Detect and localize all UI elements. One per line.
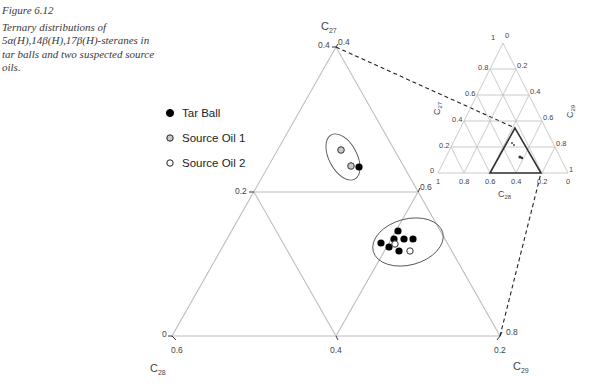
legend-source-oil-2: Source Oil 2 (182, 157, 245, 169)
svg-text:0.8: 0.8 (478, 63, 488, 72)
svg-text:0.2: 0.2 (517, 61, 527, 70)
svg-text:1: 1 (491, 33, 495, 42)
inset-tick-labels: 1 0 0.8 0.2 0.6 0.4 0.4 0.6 0.2 0.8 0 1 … (430, 31, 573, 186)
svg-text:1: 1 (569, 165, 573, 174)
tick-bottom-mid: 0.4 (330, 345, 342, 355)
inset-zoom-region (490, 128, 541, 173)
main-tick-labels: 0.4 0.4 0.2 0.6 0 0.6 0.4 0.2 0.8 (162, 37, 518, 355)
cluster-tar-balls (367, 210, 448, 273)
tick-right: 0.8 (506, 327, 518, 337)
axis-c28-label: C28 (150, 362, 166, 376)
main-triangle (172, 47, 500, 336)
svg-text:0.8: 0.8 (459, 177, 469, 186)
svg-text:0.4: 0.4 (511, 177, 521, 186)
svg-text:0.8: 0.8 (556, 139, 566, 148)
inset-data-marks (511, 142, 523, 159)
tick-bottom-left: 0 (162, 329, 167, 339)
tick-apex-left: 0.4 (318, 40, 330, 50)
ternary-chart: Tar Ball Source Oil 1 Source Oil 2 0.4 0… (0, 0, 596, 390)
inset-axis-c28: C28 (498, 189, 512, 200)
tick-apex-right: 0.4 (338, 37, 350, 47)
source-oil-2-marker-icon (167, 160, 173, 166)
svg-text:1: 1 (436, 177, 440, 186)
legend: Tar Ball Source Oil 1 Source Oil 2 (166, 107, 245, 169)
svg-text:0: 0 (430, 166, 434, 175)
tick-mid-left: 0.2 (235, 186, 247, 196)
tick-mid-right: 0.6 (420, 182, 432, 192)
axis-c27-label: C27 (321, 20, 337, 34)
tick-bottom-right: 0.2 (494, 345, 506, 355)
inset-axis-c29: C29 (565, 104, 576, 118)
svg-text:0.2: 0.2 (439, 141, 449, 150)
cluster-source-oil-1 (319, 128, 367, 185)
tar-ball-marker-icon (166, 109, 173, 116)
svg-text:0.6: 0.6 (485, 177, 495, 186)
svg-text:0: 0 (505, 31, 509, 40)
svg-text:0: 0 (566, 177, 570, 186)
svg-text:0.4: 0.4 (452, 115, 462, 124)
inset-axis-c27: C27 (432, 101, 443, 115)
source-oil-1-marker-icon (167, 135, 173, 141)
svg-text:0.6: 0.6 (543, 113, 553, 122)
tick-bottom-left-below: 0.6 (171, 345, 183, 355)
svg-text:0.4: 0.4 (530, 87, 540, 96)
legend-tar-ball: Tar Ball (182, 107, 220, 119)
svg-text:0.2: 0.2 (537, 177, 547, 186)
svg-text:0.6: 0.6 (465, 89, 475, 98)
legend-source-oil-1: Source Oil 1 (182, 132, 245, 144)
inset-triangle (438, 43, 568, 173)
axis-c29-label: C29 (513, 360, 529, 374)
